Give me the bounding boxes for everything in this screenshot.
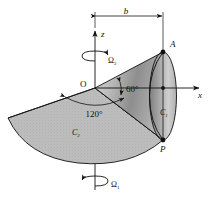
- point-P-label: P: [159, 144, 166, 154]
- dimension-label-b: b: [124, 6, 129, 16]
- cone-rolling-diagram: b z C2 C1 x O: [0, 0, 217, 207]
- angle-60-label: 60°: [126, 84, 139, 94]
- z-axis-label: z: [100, 29, 105, 39]
- point-P-dot: [161, 138, 166, 143]
- origin-marker: O: [80, 79, 87, 89]
- x-axis-label: x: [197, 90, 202, 100]
- point-A-label: A: [169, 39, 176, 49]
- angle-120-label: 120°: [85, 109, 103, 119]
- origin-label: O: [80, 79, 87, 89]
- axis-center-dot: [161, 86, 165, 90]
- point-A-dot: [161, 50, 166, 55]
